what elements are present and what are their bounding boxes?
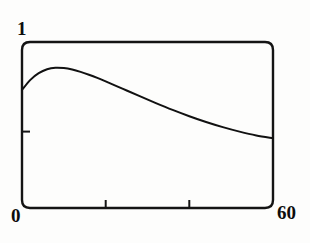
data-series-curve (22, 68, 273, 139)
figure-canvas: 1 0 60 (0, 0, 310, 243)
plot-area (0, 0, 310, 243)
